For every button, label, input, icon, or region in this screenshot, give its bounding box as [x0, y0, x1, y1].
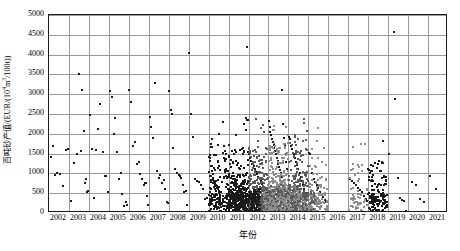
- data-point: [231, 150, 233, 152]
- data-point: [114, 117, 116, 119]
- data-point: [287, 200, 289, 202]
- data-point: [223, 201, 225, 203]
- data-point: [263, 131, 265, 133]
- data-point: [225, 153, 227, 155]
- data-point: [357, 172, 359, 174]
- data-point: [242, 196, 244, 198]
- data-point: [210, 146, 212, 148]
- data-point: [109, 90, 111, 92]
- data-point: [239, 210, 241, 212]
- data-point: [326, 206, 328, 208]
- data-point: [278, 150, 280, 152]
- data-point: [315, 181, 317, 183]
- data-point: [235, 134, 237, 136]
- data-point: [415, 184, 417, 186]
- data-point: [277, 211, 279, 212]
- data-point: [225, 209, 227, 211]
- data-point: [275, 168, 277, 170]
- data-point: [364, 143, 366, 145]
- data-point: [325, 164, 327, 166]
- data-point: [241, 199, 243, 201]
- data-point: [361, 164, 363, 166]
- data-point: [371, 185, 373, 187]
- data-point: [247, 119, 249, 121]
- data-point: [264, 173, 266, 175]
- data-point: [376, 186, 378, 188]
- data-point: [423, 201, 425, 203]
- data-point: [311, 179, 313, 181]
- data-point: [107, 191, 109, 193]
- data-point: [254, 180, 256, 182]
- data-point: [309, 186, 311, 188]
- data-point: [217, 179, 219, 181]
- data-point: [294, 134, 296, 136]
- data-point: [218, 192, 220, 194]
- data-point: [150, 126, 152, 128]
- data-point: [221, 211, 223, 212]
- data-point: [305, 174, 307, 176]
- y-axis-title: 百吨砂产值/(EUR/(104m3/100t)): [0, 0, 14, 220]
- data-point: [270, 211, 272, 212]
- data-point: [273, 193, 275, 195]
- data-point: [354, 174, 356, 176]
- data-point: [210, 143, 212, 145]
- data-point: [267, 184, 269, 186]
- data-point: [269, 152, 271, 154]
- data-point: [302, 195, 304, 197]
- data-point: [70, 200, 72, 202]
- data-point: [97, 128, 99, 130]
- data-point: [254, 211, 256, 212]
- data-point: [270, 189, 272, 191]
- data-point: [279, 147, 281, 149]
- data-point: [306, 130, 308, 132]
- data-point: [285, 210, 287, 212]
- data-point: [393, 31, 395, 33]
- data-point: [311, 148, 313, 150]
- data-point: [235, 160, 237, 162]
- data-point: [232, 178, 234, 180]
- data-point: [364, 199, 366, 201]
- data-point: [263, 207, 265, 209]
- data-point: [202, 188, 204, 190]
- data-point: [245, 173, 247, 175]
- data-point: [266, 189, 268, 191]
- data-point: [234, 189, 236, 191]
- data-point: [269, 169, 271, 171]
- data-point: [250, 178, 252, 180]
- data-point: [435, 188, 437, 190]
- data-point: [352, 168, 354, 170]
- data-point: [228, 174, 230, 176]
- data-point: [278, 211, 280, 212]
- y-tick-label: 500: [32, 188, 44, 196]
- data-point: [297, 206, 299, 208]
- data-point: [301, 176, 303, 178]
- data-point: [360, 194, 362, 196]
- data-point: [348, 209, 350, 211]
- data-point: [271, 138, 273, 140]
- data-point: [206, 197, 208, 199]
- data-point: [273, 174, 275, 176]
- data-point: [289, 208, 291, 210]
- data-point: [288, 211, 290, 212]
- data-point: [266, 211, 268, 212]
- data-point: [350, 169, 352, 171]
- data-point: [87, 190, 89, 192]
- data-point: [358, 166, 360, 168]
- data-point: [381, 177, 383, 179]
- data-point: [240, 165, 242, 167]
- data-point: [305, 139, 307, 141]
- y-tick-label: 2500: [28, 109, 44, 117]
- data-point: [270, 157, 272, 159]
- data-point: [374, 197, 376, 199]
- data-point: [359, 202, 361, 204]
- data-point: [309, 165, 311, 167]
- data-point: [304, 184, 306, 186]
- data-point: [313, 194, 315, 196]
- data-point: [286, 211, 288, 212]
- data-point: [351, 211, 353, 212]
- data-point: [228, 156, 230, 158]
- scatter-chart-figure: 百吨砂产值/(EUR/(104m3/100t)) 050010001500200…: [0, 0, 460, 251]
- data-point: [349, 177, 351, 179]
- data-point: [83, 130, 85, 132]
- data-point: [220, 206, 222, 208]
